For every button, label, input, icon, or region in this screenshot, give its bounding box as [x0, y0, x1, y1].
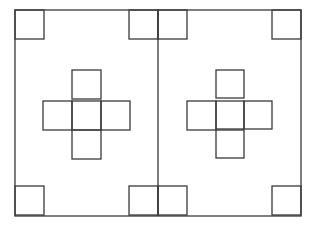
corner-square [129, 10, 158, 39]
net-diagram [0, 0, 312, 225]
corner-square [15, 186, 44, 215]
cross-square [244, 101, 272, 129]
corner-square [129, 186, 158, 215]
cross-square [216, 101, 244, 129]
cross-square [43, 101, 72, 130]
cross-square [216, 70, 244, 98]
cross-square [101, 101, 130, 130]
cross-square [187, 101, 216, 130]
cross-square [72, 130, 101, 159]
corner-square [158, 186, 187, 215]
left-panel [15, 10, 158, 215]
cross-square [72, 70, 101, 99]
corner-square [272, 186, 301, 215]
corner-square [15, 10, 44, 39]
cross-square [72, 101, 101, 130]
right-panel [158, 10, 301, 215]
corner-square [272, 10, 301, 39]
cross-square [216, 130, 244, 158]
corner-square [158, 10, 187, 39]
